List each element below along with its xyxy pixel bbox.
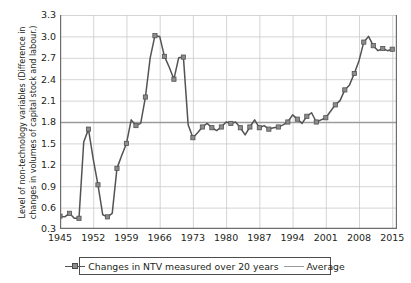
legend-average-label: Average (307, 261, 345, 272)
y-tick-label: 1.8 (30, 117, 56, 127)
legend-item-average: Average (284, 261, 345, 272)
legend-average-symbol-icon (284, 262, 304, 271)
plot-svg (60, 15, 397, 229)
y-tick-label: 0.9 (30, 182, 56, 192)
y-tick-label: 1.5 (30, 139, 56, 149)
legend-item-series: Changes in NTV measured over 20 years (65, 261, 278, 272)
legend-series-symbol-icon (65, 262, 85, 271)
y-tick-label: 2.1 (30, 96, 56, 106)
y-tick-label: 2.4 (30, 75, 56, 85)
y-tick-label: 1.2 (30, 160, 56, 170)
y-tick-label: 2.7 (30, 53, 56, 63)
x-axis-tick-labels: 1945195219591966197319801987199420012008… (0, 233, 411, 247)
legend-series-label: Changes in NTV measured over 20 years (88, 261, 278, 272)
chart-figure: Level of non-technology variables (Diffe… (0, 0, 411, 283)
series-line (60, 36, 392, 219)
x-tick-label: 2015 (372, 233, 411, 243)
y-tick-label: 0.6 (30, 203, 56, 213)
series-markers (60, 34, 394, 221)
y-tick-label: 3.0 (30, 32, 56, 42)
plot-area (60, 15, 397, 229)
chart-legend: Changes in NTV measured over 20 years Av… (79, 257, 331, 275)
y-tick-label: 3.3 (30, 10, 56, 20)
